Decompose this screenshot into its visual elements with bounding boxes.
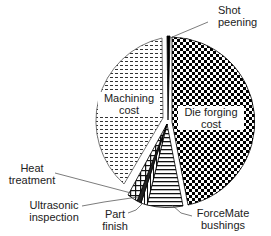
label-text: ForceMate [192,207,254,219]
label-die-forging-cost: Die forging cost [178,106,244,130]
leader-ultrasonic [82,197,138,206]
label-text: Heat [6,162,58,174]
label-text: cost [178,118,244,130]
slice-shot-peening [167,36,170,120]
leader-part-finish [128,203,143,213]
leader-shot-peening [170,22,208,38]
label-text: bushings [192,219,254,231]
label-text: finish [100,220,130,232]
label-text: Machining [98,92,160,104]
label-text: treatment [6,174,58,186]
label-forcemate-bushings: ForceMate bushings [192,207,254,231]
label-machining-cost: Machining cost [98,92,160,116]
label-heat-treatment: Heat treatment [6,162,58,186]
label-ultrasonic-inspection: Ultrasonic inspection [26,199,82,223]
label-part-finish: Part finish [100,208,130,232]
label-text: cost [98,104,160,116]
label-text: Ultrasonic [26,199,82,211]
label-text: Die forging [178,106,244,118]
label-shot-peening: Shot peening [218,4,257,28]
label-text: Part [100,208,130,220]
label-text: peening [218,16,257,28]
label-text: inspection [26,211,82,223]
label-text: Shot [218,4,257,16]
